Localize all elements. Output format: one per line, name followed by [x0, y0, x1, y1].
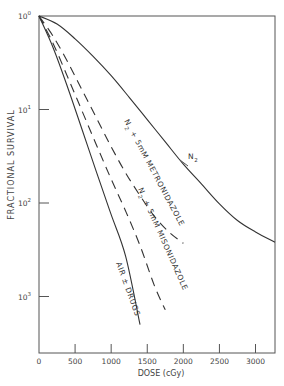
x-tick-label: 2000	[174, 357, 193, 366]
x-tick-label: 3000	[246, 357, 265, 366]
survival-chart: 050010001500200025003000 100101102103 N2…	[0, 0, 284, 386]
n2-metronidazole-curve	[39, 16, 183, 243]
x-axis-label: DOSE (cGy)	[138, 369, 185, 378]
y-axis-label: FRACTIONAL SURVIVAL	[7, 109, 16, 220]
x-tick-label: 500	[68, 357, 83, 366]
x-axis-ticks: 050010001500200025003000	[37, 344, 266, 366]
n2-curve	[39, 16, 275, 242]
curve-labels: N2N2 + 5mM METRONIDAZOLEN2 + 5mM MISONID…	[114, 118, 198, 318]
x-tick-label: 2500	[210, 357, 229, 366]
y-tick-label: 101	[18, 104, 31, 115]
y-axis-ticks: 100101102103	[18, 10, 49, 302]
n2-misonidazole-label: N2 + 5mM MISONIDAZOLE	[134, 186, 189, 292]
x-tick-label: 1500	[138, 357, 157, 366]
x-tick-label: 1000	[102, 357, 121, 366]
y-tick-label: 100	[18, 10, 32, 21]
x-tick-label: 0	[37, 357, 42, 366]
n2-label: N2	[188, 152, 198, 163]
y-tick-label: 103	[18, 291, 32, 302]
y-tick-label: 102	[18, 197, 31, 208]
